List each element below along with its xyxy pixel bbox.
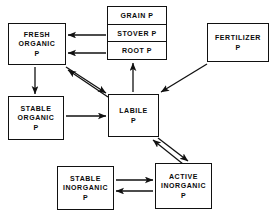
node-label-line: ACTIVE [169,172,198,182]
node-stover-p[interactable]: STOVER P [108,24,166,42]
arrow-active-inorganic-to-labile [153,140,183,164]
node-label-line: ORGANIC [18,113,55,123]
node-crop-fractions-stack: GRAIN P STOVER P ROOT P [107,6,167,60]
node-label-line: LABILE [119,106,148,116]
node-label-line: FRESH [24,30,50,40]
diagram-canvas: FRESH ORGANIC P STABLE ORGANIC P LABILE … [0,0,277,217]
node-fertilizer-p[interactable]: FERTILIZER P [207,23,269,62]
node-label-line: P [33,123,38,133]
node-label-line: STABLE [21,104,52,114]
node-label-line: P [83,193,88,203]
node-label-line: P [235,43,240,53]
node-stable-inorganic-p[interactable]: STABLE INORGANIC P [57,166,114,210]
node-label-line: INORGANIC [63,183,108,193]
arrow-labile-to-fresh [68,70,108,97]
node-label-line: P [181,191,186,201]
node-fresh-organic-p[interactable]: FRESH ORGANIC P [8,23,66,65]
arrow-fertilizer-to-labile [161,64,207,92]
node-grain-p[interactable]: GRAIN P [108,7,166,24]
node-label-line: INORGANIC [161,181,206,191]
node-label-line: FERTILIZER [215,33,261,43]
node-label-line: P [34,49,39,59]
node-stable-organic-p[interactable]: STABLE ORGANIC P [8,96,64,140]
node-label-line: STABLE [70,174,101,184]
node-label-line: P [131,116,136,126]
node-label-line: ORGANIC [19,39,56,49]
arrow-fresh-to-labile [66,67,106,93]
arrow-labile-to-active-inorganic [158,138,188,161]
node-active-inorganic-p[interactable]: ACTIVE INORGANIC P [155,163,212,209]
node-labile-p[interactable]: LABILE P [108,94,159,137]
node-root-p[interactable]: ROOT P [108,41,166,59]
